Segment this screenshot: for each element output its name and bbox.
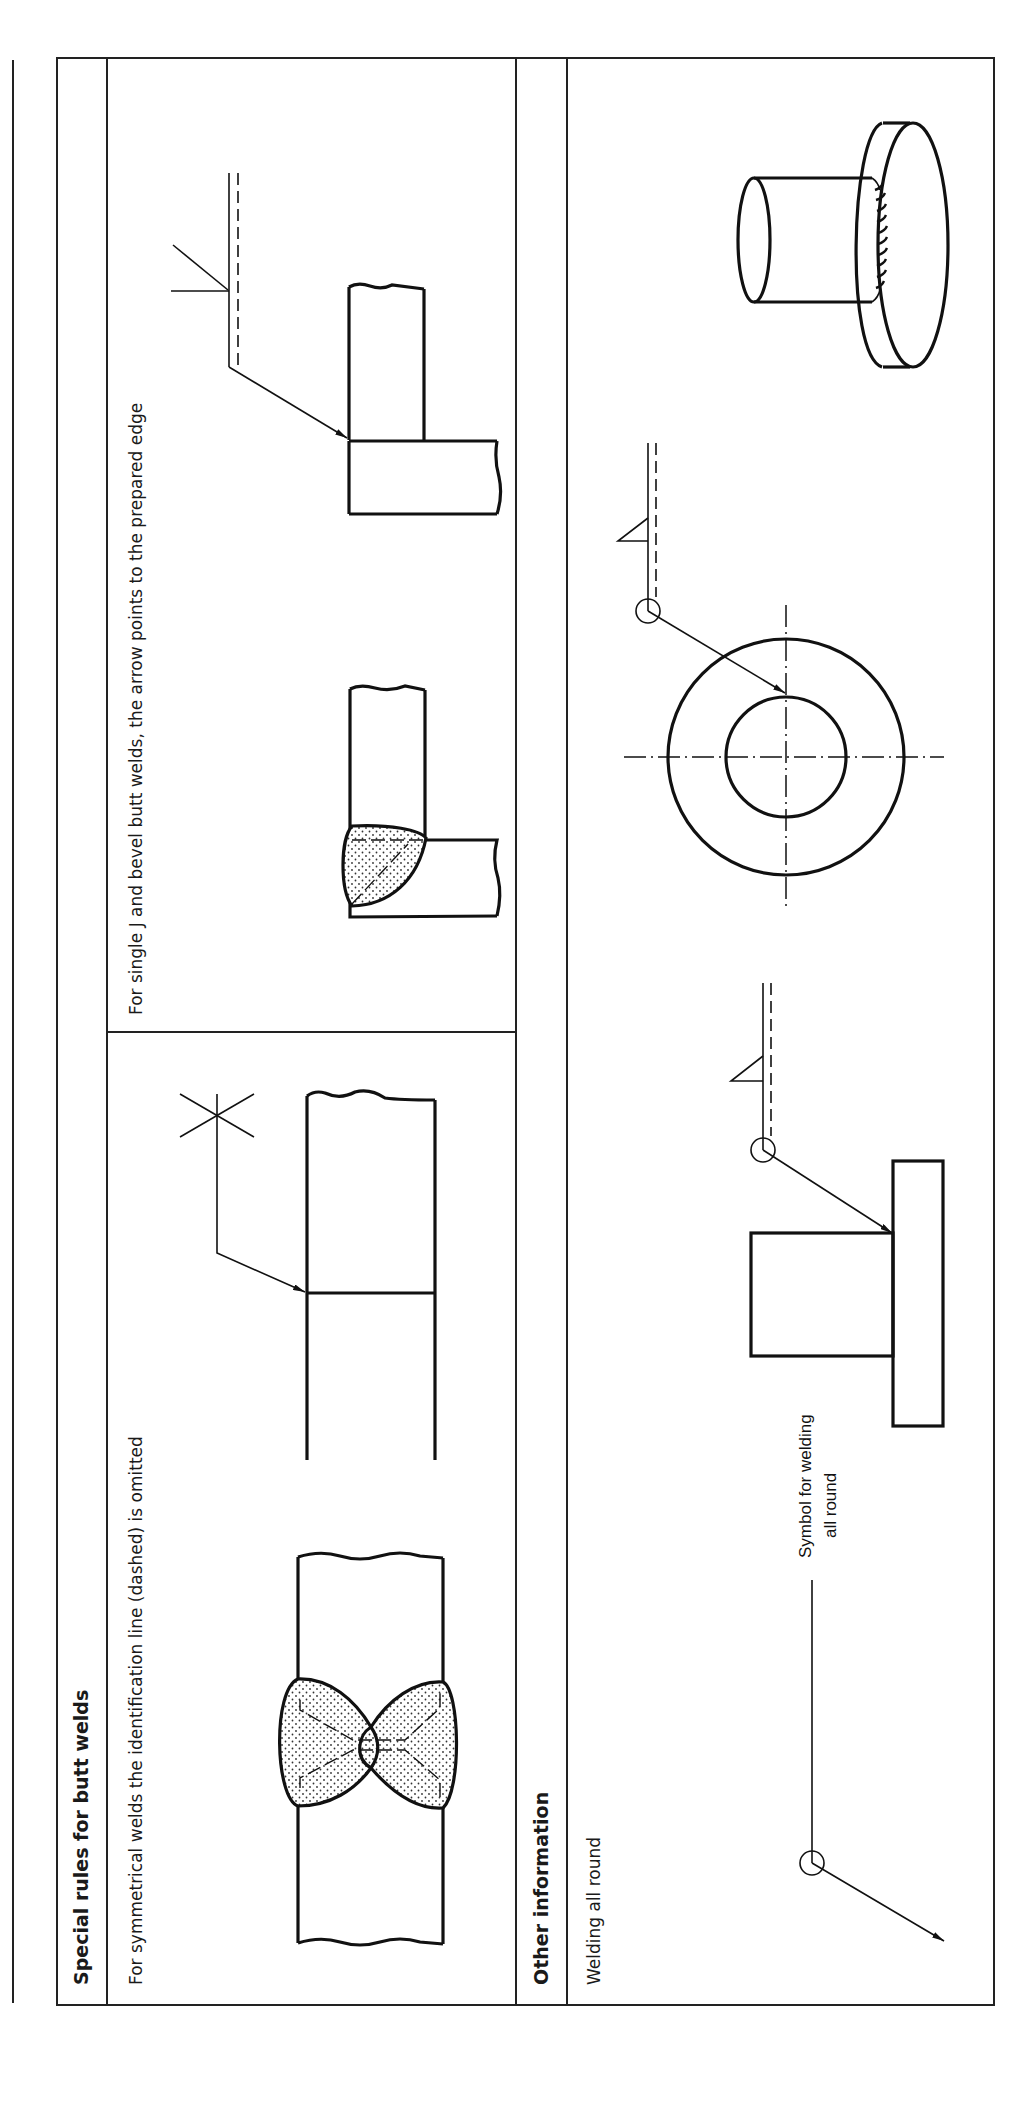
caption-welding-all-round: Welding all round [584, 1837, 604, 1985]
svg-text:Welding all round: Welding all round [584, 1837, 604, 1985]
single-bevel-weld-figure [343, 686, 500, 917]
fillet-weld-symbol-icon [618, 518, 648, 541]
all-round-symbol-figure: Symbol for welding all round [796, 1414, 944, 1941]
page-canvas: Special rules for butt welds For symmetr… [0, 0, 1014, 2113]
section-title-other-information: Other information [530, 1792, 552, 1985]
fillet-weld-symbol-icon [731, 1056, 763, 1081]
butt-joint-x-symbol-figure [180, 1091, 435, 1460]
caption-single-j-bevel: For single J and bevel butt welds, the a… [126, 403, 146, 1015]
caption-symmetrical: For symmetrical welds the identification… [126, 1436, 146, 1985]
tube-on-plate-side-view-figure [731, 983, 943, 1426]
svg-text:all round: all round [821, 1473, 840, 1538]
svg-text:For symmetrical welds the iden: For symmetrical welds the identification… [126, 1436, 146, 1985]
svg-text:Special rules for butt welds: Special rules for butt welds [70, 1690, 92, 1985]
tube-on-plate-plan-view-figure [618, 443, 944, 910]
svg-text:Symbol for welding: Symbol for welding [796, 1414, 815, 1558]
svg-text:Other information: Other information [530, 1792, 552, 1985]
isometric-tube-flange-figure [738, 123, 948, 367]
svg-text:For single J and bevel butt we: For single J and bevel butt welds, the a… [126, 403, 146, 1015]
bevel-weld-symbol-icon [173, 245, 228, 290]
section-title-butt-welds: Special rules for butt welds [70, 1690, 92, 1985]
double-v-butt-weld-figure [280, 1553, 457, 1945]
bevel-t-joint-figure [171, 173, 501, 514]
